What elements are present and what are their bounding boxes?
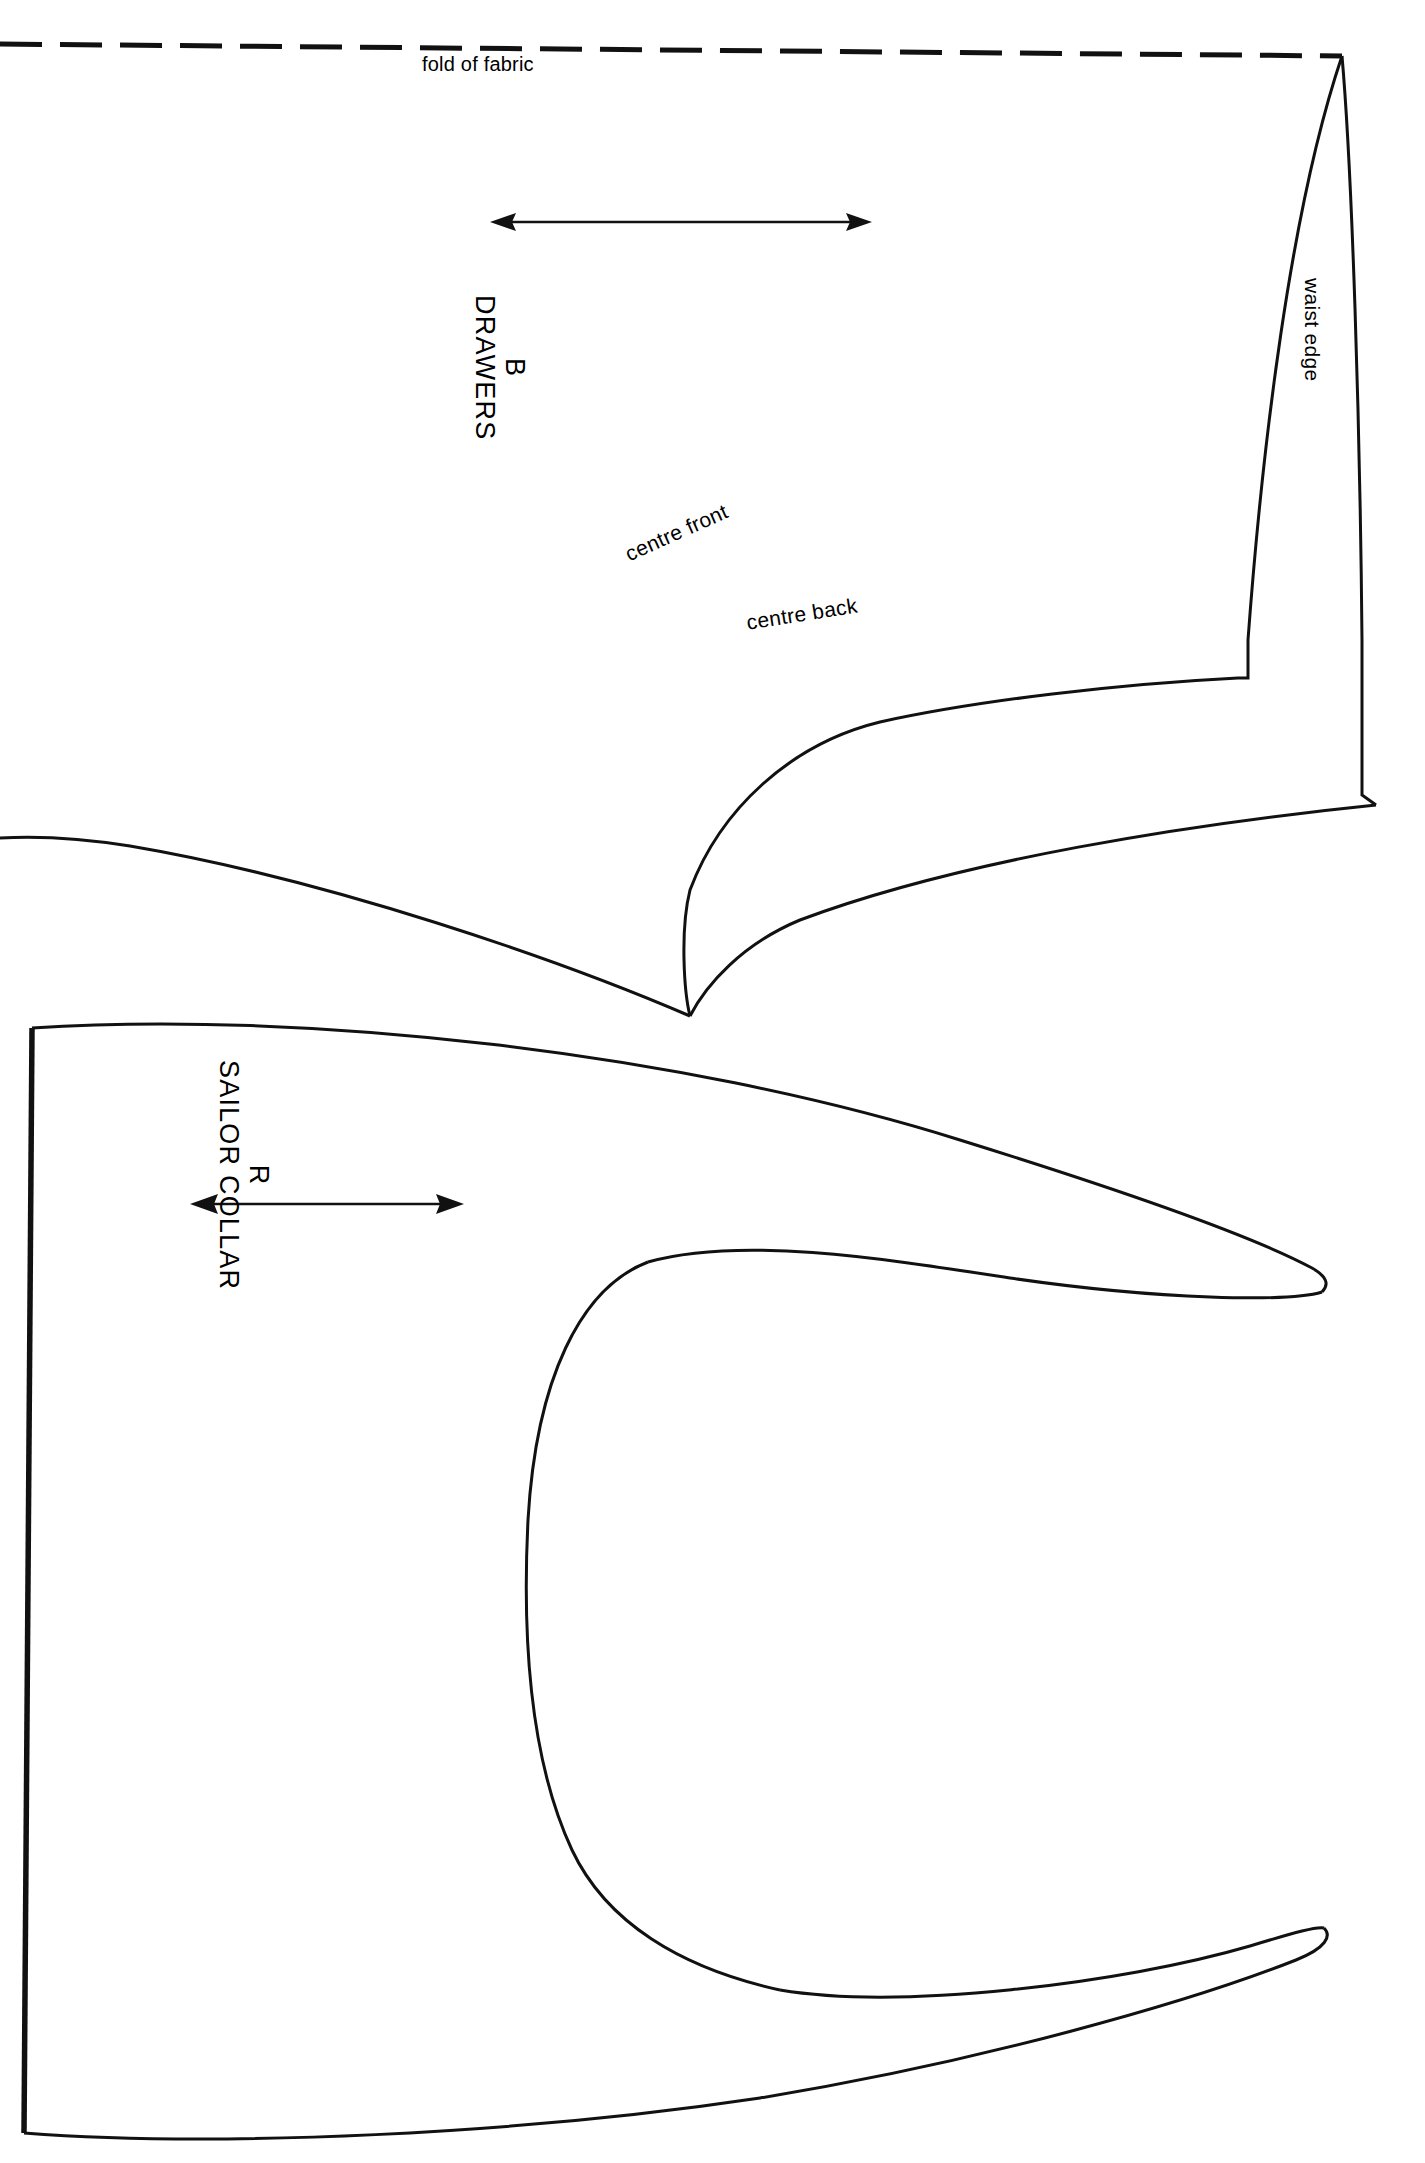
- grain-arrow-head-right: [436, 1194, 464, 1214]
- centre-front-line: [684, 56, 1342, 1016]
- waist-edge-line: [1342, 56, 1376, 805]
- collar-right-upper-point: [648, 1250, 1322, 1298]
- fold-of-fabric-label: fold of fabric: [422, 54, 534, 74]
- centre-back-line: [690, 805, 1376, 1016]
- pattern-sheet: fold of fabric waist edge centre front c…: [0, 0, 1425, 2163]
- waist-edge-label: waist edge: [1302, 278, 1323, 381]
- collar-neck-opening-edge: [526, 1262, 780, 1990]
- piece-b-label: B DRAWERS: [471, 295, 528, 440]
- collar-right-lower-point: [24, 1928, 1327, 2139]
- piece-r-name: SAILOR COLLAR: [215, 1060, 242, 1290]
- piece-r-code: R: [245, 1060, 272, 1290]
- piece-b-name: DRAWERS: [471, 295, 498, 440]
- grain-arrow-icon-drawers: [490, 213, 872, 231]
- drawers-leg-edge-line: [0, 837, 690, 1016]
- piece-r-label: R SAILOR COLLAR: [215, 1060, 272, 1290]
- collar-centre-back-fold-line: [24, 1028, 32, 2133]
- fold-of-fabric-line: [0, 44, 1342, 56]
- collar-lower-inner-edge: [780, 1928, 1324, 1997]
- piece-b-code: B: [501, 295, 528, 440]
